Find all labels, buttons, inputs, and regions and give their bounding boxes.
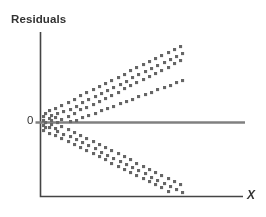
y-axis-label: Residuals [11, 14, 66, 26]
zero-tick-label: 0 [27, 115, 33, 127]
residual-plot-figure: Residuals X 0 [0, 0, 266, 217]
scatter-plot-canvas [0, 0, 266, 217]
x-axis-label: X [247, 189, 255, 201]
